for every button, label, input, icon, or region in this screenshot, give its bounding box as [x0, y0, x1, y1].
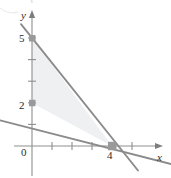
- scan-artifact-arc: [0, 0, 32, 13]
- y-tick-label-5: 5: [19, 33, 25, 44]
- y-tick-label-2: 2: [19, 100, 25, 111]
- x-tick-label-4: 4: [107, 150, 113, 161]
- y-axis-label: y: [21, 10, 26, 21]
- x-axis-label: x: [157, 152, 162, 163]
- origin-label: 0: [21, 147, 27, 158]
- graph-figure: y x 5 2 0 4: [0, 0, 171, 178]
- point-marker-0-2: [29, 100, 36, 107]
- point-marker-0-5: [29, 35, 36, 42]
